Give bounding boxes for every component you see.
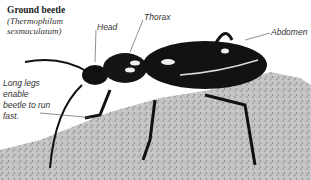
antenna-icon: [25, 60, 88, 72]
thorax-pointer: [130, 20, 143, 52]
label-head: Head: [97, 22, 117, 32]
beetle-thorax: [103, 53, 147, 83]
scientific-name: (Thermophilum sexmaculatum): [7, 16, 87, 36]
head-pointer: [95, 30, 96, 62]
label-thorax: Thorax: [144, 12, 170, 22]
beetle-figure: Ground beetle (Thermophilum sexmaculatum…: [0, 0, 311, 180]
abdomen-pointer: [245, 33, 270, 40]
figure-title: Ground beetle: [7, 5, 65, 15]
beetle-abdomen: [143, 41, 267, 89]
label-abdomen: Abdomen: [271, 27, 307, 37]
legs-caption: Long legs enable beetle to run fast.: [3, 78, 53, 122]
